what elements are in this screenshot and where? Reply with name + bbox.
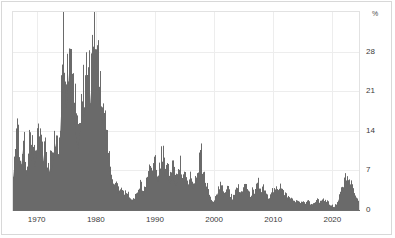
zero-baseline-axis	[13, 210, 360, 211]
y-axis-unit-label: %	[372, 10, 378, 17]
y-axis-tick-label: 0	[366, 206, 370, 214]
inflation-area-series	[13, 12, 359, 210]
x-axis-tick-label: 2010	[258, 216, 288, 224]
y-axis-tick-label: 21	[366, 87, 375, 95]
x-axis-tick-label: 2000	[199, 216, 229, 224]
x-axis-tick-label: 1980	[81, 216, 111, 224]
y-axis-tick-label: 28	[366, 48, 375, 56]
x-axis-tick-label: 1990	[140, 216, 170, 224]
chart-figure: % 28211470 197019801990200020102020	[0, 0, 395, 238]
y-axis-tick-label: 14	[366, 127, 375, 135]
x-axis-tick-label: 2020	[317, 216, 347, 224]
plot-area	[13, 12, 359, 210]
x-axis-tick-label: 1970	[22, 216, 52, 224]
y-axis-tick-label: 7	[366, 166, 370, 174]
